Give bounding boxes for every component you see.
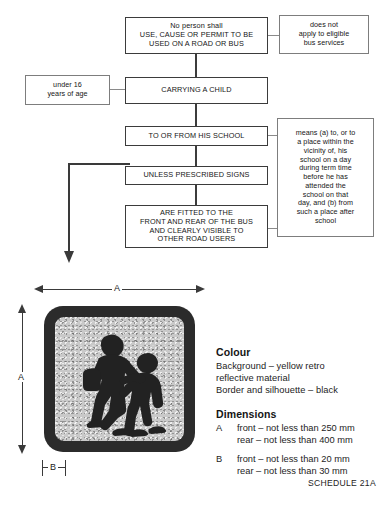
colour-description: Background – yellow retro reflective mat… — [216, 360, 378, 397]
dimension-row-b-value: front – not less than 20 mm rear – not l… — [237, 453, 350, 477]
dimension-row-a: A front – not less than 250 mm rear – no… — [216, 422, 378, 446]
flow-box-unless-prescribed-signs: UNLESS PRESCRIBED SIGNS — [125, 166, 268, 185]
connector-box1-box2 — [195, 54, 197, 77]
sign-specification: A A — [0, 270, 378, 524]
dimension-row-a-value: front – not less than 250 mm rear – not … — [237, 422, 355, 446]
flowchart: No person shall USE, CAUSE OR PERMIT TO … — [0, 0, 378, 270]
dimension-row-a-key: A — [216, 422, 237, 446]
flow-box-are-fitted-label: ARE FITTED TO THE FRONT AND REAR OF THE … — [136, 209, 257, 245]
children-silhouette-icon — [55, 317, 184, 441]
annotation-box-under-16: under 16 years of age — [25, 75, 110, 105]
schedule-reference: SCHEDULE 21A — [308, 478, 376, 488]
flow-box-to-or-from-school: TO OR FROM HIS SCHOOL — [125, 126, 268, 146]
flow-box-to-or-from-school-label: TO OR FROM HIS SCHOOL — [144, 132, 248, 141]
school-bus-sign — [44, 306, 195, 452]
dimension-width-a: A — [34, 283, 205, 297]
dimension-row-b: B front – not less than 20 mm rear – not… — [216, 453, 378, 477]
leader-to-eligible-bus-services — [268, 35, 279, 36]
leader-to-school-definition — [268, 135, 277, 136]
sign-legend: Colour Background – yellow retro reflect… — [216, 346, 378, 484]
annotation-box-under-16-label: under 16 years of age — [43, 81, 91, 99]
dimension-border-label: B — [48, 462, 58, 472]
dimension-width-arrowhead-left-icon — [34, 285, 43, 293]
annotation-box-eligible-bus-services: does not apply to eligible bus services — [279, 15, 369, 54]
leader-school-definition-bottom — [268, 228, 277, 229]
dimension-width-arrowhead-right-icon — [196, 285, 205, 293]
flow-box-carrying-a-child: CARRYING A CHILD — [125, 77, 268, 104]
annotation-box-school-definition-label: means (a) to, or to a place within the v… — [292, 129, 360, 226]
connector-box2-box3 — [195, 104, 197, 126]
annotation-box-eligible-bus-services-label: does not apply to eligible bus services — [295, 21, 353, 47]
flow-box-use-cause-permit: No person shall USE, CAUSE OR PERMIT TO … — [125, 17, 268, 54]
flow-arrow-vertical-segment — [68, 163, 70, 253]
dimension-height-label: A — [16, 372, 26, 382]
colour-heading: Colour — [216, 346, 378, 358]
dimensions-heading: Dimensions — [216, 408, 378, 420]
flow-arrow-horizontal-segment — [68, 163, 130, 165]
dimension-height-a: A — [16, 304, 30, 454]
flow-box-are-fitted: ARE FITTED TO THE FRONT AND REAR OF THE … — [125, 205, 268, 248]
flow-arrow-to-sign — [60, 163, 130, 268]
dimension-row-b-key: B — [216, 453, 237, 477]
flow-arrow-head-icon — [64, 251, 74, 263]
dimension-height-arrowhead-top-icon — [18, 304, 26, 313]
connector-box3-box4 — [195, 146, 197, 166]
flow-box-unless-prescribed-signs-label: UNLESS PRESCRIBED SIGNS — [139, 171, 253, 180]
leader-to-under-16 — [110, 89, 125, 90]
dimension-height-arrowhead-bottom-icon — [18, 445, 26, 454]
sign-reflective-background — [55, 317, 184, 441]
annotation-box-school-definition: means (a) to, or to a place within the v… — [277, 118, 374, 237]
legend-spacer — [216, 397, 378, 408]
dimension-width-label: A — [112, 283, 122, 293]
dimension-border-b: B — [40, 460, 80, 480]
connector-box4-box5 — [195, 185, 197, 205]
flow-box-carrying-a-child-label: CARRYING A CHILD — [157, 86, 235, 95]
flow-box-use-cause-permit-label: No person shall USE, CAUSE OR PERMIT TO … — [136, 22, 257, 49]
